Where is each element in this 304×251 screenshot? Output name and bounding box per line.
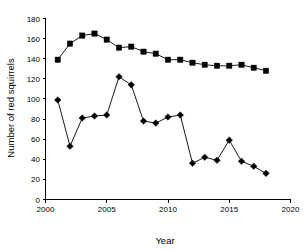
data-point-marker bbox=[116, 45, 121, 50]
x-tick-label: 2000 bbox=[37, 205, 55, 214]
data-point-marker bbox=[153, 51, 158, 56]
data-point-marker bbox=[140, 118, 147, 125]
data-point-marker bbox=[80, 33, 85, 38]
data-point-marker bbox=[178, 57, 183, 62]
data-point-marker bbox=[190, 60, 195, 65]
data-point-marker bbox=[177, 112, 184, 119]
data-point-marker bbox=[250, 163, 257, 170]
y-tick-label: 60 bbox=[31, 135, 40, 144]
data-point-marker bbox=[189, 160, 196, 167]
data-point-marker bbox=[214, 63, 219, 68]
data-point-marker bbox=[67, 143, 74, 150]
data-series-group bbox=[54, 31, 269, 177]
data-point-marker bbox=[55, 57, 60, 62]
data-point-marker bbox=[165, 114, 172, 121]
data-point-marker bbox=[202, 62, 207, 67]
data-point-marker bbox=[129, 44, 134, 49]
data-point-marker bbox=[201, 154, 208, 161]
y-tick-label: 0 bbox=[36, 196, 41, 205]
x-axis-tick-labels: 20002005201020152020 bbox=[37, 205, 300, 214]
y-tick-label: 120 bbox=[27, 75, 41, 84]
data-point-marker bbox=[67, 41, 72, 46]
data-point-marker bbox=[238, 158, 245, 165]
red-squirrel-line-chart: 020406080100120140160180 200020052010201… bbox=[0, 0, 304, 251]
y-tick-label: 180 bbox=[27, 15, 41, 24]
y-axis-tick-labels: 020406080100120140160180 bbox=[27, 15, 41, 205]
data-point-marker bbox=[152, 120, 159, 127]
y-tick-label: 140 bbox=[27, 55, 41, 64]
series-line-square-series bbox=[58, 34, 266, 71]
data-point-marker bbox=[251, 65, 256, 70]
data-point-marker bbox=[214, 157, 221, 164]
x-tick-label: 2005 bbox=[98, 205, 116, 214]
y-tick-label: 80 bbox=[31, 115, 40, 124]
y-tick-label: 40 bbox=[31, 155, 40, 164]
data-point-marker bbox=[54, 97, 61, 104]
series-square-series bbox=[55, 31, 269, 74]
data-point-marker bbox=[226, 137, 233, 144]
series-line-diamond-series bbox=[58, 77, 266, 174]
data-point-marker bbox=[91, 113, 98, 120]
series-diamond-series bbox=[54, 74, 269, 177]
data-point-marker bbox=[103, 112, 110, 119]
data-point-marker bbox=[263, 68, 268, 73]
data-point-marker bbox=[227, 63, 232, 68]
y-tick-label: 160 bbox=[27, 35, 41, 44]
y-tick-label: 100 bbox=[27, 95, 41, 104]
data-point-marker bbox=[92, 31, 97, 36]
chart-canvas: 020406080100120140160180 200020052010201… bbox=[0, 0, 304, 251]
x-tick-label: 2020 bbox=[282, 205, 300, 214]
data-point-marker bbox=[79, 115, 86, 122]
y-axis-title: Number of red squirrels bbox=[5, 58, 16, 158]
data-point-marker bbox=[104, 37, 109, 42]
x-tick-label: 2010 bbox=[159, 205, 177, 214]
data-point-marker bbox=[116, 74, 123, 81]
data-point-marker bbox=[239, 62, 244, 67]
data-point-marker bbox=[263, 170, 270, 177]
x-tick-label: 2015 bbox=[220, 205, 238, 214]
data-point-marker bbox=[141, 49, 146, 54]
y-tick-label: 20 bbox=[31, 175, 40, 184]
data-point-marker bbox=[165, 57, 170, 62]
data-point-marker bbox=[128, 82, 135, 89]
x-axis-title: Year bbox=[155, 235, 174, 246]
